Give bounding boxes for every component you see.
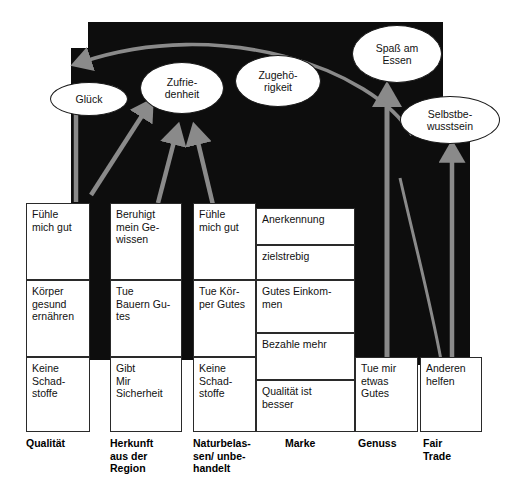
column-caption-fairtrade: Fair Trade [423, 437, 493, 462]
value-label: Zufrie- denheit [165, 76, 199, 101]
attribute-box[interactable]: Gutes Einkom- men [256, 280, 355, 333]
value-ellipse-glueck[interactable]: Glück [50, 82, 128, 116]
attribute-box[interactable]: Fühle mich gut [26, 203, 90, 280]
value-ellipse-zugehoerigkeit[interactable]: Zugehö- rigkeit [235, 55, 321, 107]
attribute-box[interactable]: Beruhigt mein Ge- wissen [110, 203, 182, 280]
attribute-box[interactable]: zielstrebig [256, 245, 355, 280]
attribute-box[interactable]: Keine Schad- stoffe [193, 357, 256, 432]
value-label: Selbstbe- wusstsein [427, 108, 473, 133]
attribute-box[interactable]: Körper gesund ernähren [26, 280, 90, 357]
attribute-box[interactable]: Tue mir etwas Gutes [355, 357, 418, 432]
attribute-box[interactable]: Anerkennung [256, 208, 355, 245]
attribute-box[interactable]: Anderen helfen [420, 357, 482, 432]
value-label: Spaß am Essen [376, 42, 419, 67]
attribute-box[interactable]: Tue Kör- per Gutes [193, 280, 256, 357]
value-label: Glück [76, 93, 103, 106]
attribute-box[interactable]: Keine Schad- stoffe [26, 357, 90, 432]
column-caption-herkunft: Herkunft aus der Region [110, 437, 190, 475]
attribute-box[interactable]: Qualität ist besser [256, 380, 355, 432]
column-caption-naturbelassen: Naturbelas- sen/ unbe- handelt [193, 437, 273, 475]
attribute-box[interactable]: Bezahle mehr [256, 333, 355, 380]
attribute-box[interactable]: Fühle mich gut [193, 203, 256, 280]
diagram-canvas: Glück Zufrie- denheit Zugehö- rigkeit Sp… [0, 0, 518, 498]
value-ellipse-zufriedenheit[interactable]: Zufrie- denheit [140, 62, 224, 114]
column-caption-qualitaet: Qualität [26, 437, 106, 450]
column-caption-genuss: Genuss [358, 437, 428, 450]
attribute-box[interactable]: Gibt Mir Sicherheit [110, 357, 182, 432]
value-ellipse-selbstbewusstsein[interactable]: Selbstbe- wusstsein [400, 96, 500, 144]
column-caption-marke: Marke [285, 437, 365, 450]
value-ellipse-spass-am-essen[interactable]: Spaß am Essen [352, 25, 442, 83]
value-label: Zugehö- rigkeit [258, 69, 297, 94]
attribute-box[interactable]: Tue Bauern Gu- tes [110, 280, 182, 357]
